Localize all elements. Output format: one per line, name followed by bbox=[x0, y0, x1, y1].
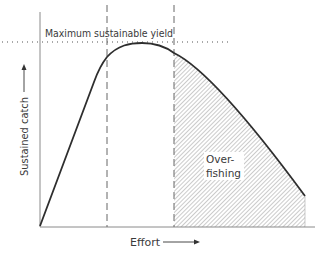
overfishing-label-line1: Over- bbox=[206, 153, 235, 165]
y-axis-label: Sustained catch bbox=[18, 97, 30, 176]
y-axis-arrow-icon bbox=[22, 64, 27, 70]
yield-effort-diagram: Maximum sustainable yield Over- fishing … bbox=[0, 0, 325, 255]
msy-label: Maximum sustainable yield bbox=[45, 27, 173, 39]
overfishing-hatched-region bbox=[174, 53, 305, 227]
overfishing-label-line2: fishing bbox=[206, 167, 241, 179]
x-axis-label: Effort bbox=[130, 236, 160, 248]
x-axis-arrow-icon bbox=[194, 240, 200, 245]
